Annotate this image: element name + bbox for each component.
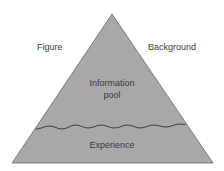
figure-label: Figure [37, 42, 63, 52]
background-label: Background [148, 42, 196, 52]
experience-label: Experience [89, 140, 134, 150]
pool-label: pool [103, 90, 120, 100]
information-label: Information [89, 78, 134, 88]
